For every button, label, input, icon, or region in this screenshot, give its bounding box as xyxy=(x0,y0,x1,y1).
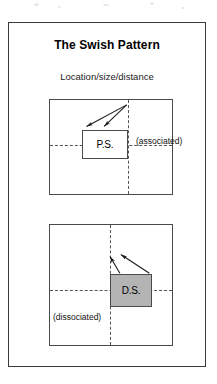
scan-speck xyxy=(34,3,39,6)
present-self-label: P.S. xyxy=(97,139,114,150)
figure-subtitle: Location/size/distance xyxy=(9,71,205,82)
vertical-dashed-axis xyxy=(128,100,129,194)
desired-self-label: D.S. xyxy=(122,285,141,296)
arrow-grow-inner xyxy=(110,256,120,273)
panel-dissociated: D.S. (dissociated) xyxy=(49,224,173,346)
scan-speck xyxy=(181,7,185,9)
arrow-grow-outer xyxy=(121,255,150,274)
scan-speck xyxy=(150,2,154,5)
arrow-shrink-inner xyxy=(104,105,127,127)
panel-associated: P.S. (associated) xyxy=(49,99,173,195)
desired-self-box: D.S. xyxy=(110,274,152,307)
figure-title: The Swish Pattern xyxy=(9,38,205,52)
label-dissociated: (dissociated) xyxy=(53,312,101,322)
present-self-box: P.S. xyxy=(82,130,128,159)
label-associated: (associated) xyxy=(136,136,182,146)
scan-artifact-top xyxy=(0,0,217,20)
figure-frame: The Swish Pattern Location/size/distance… xyxy=(8,22,206,367)
scan-speck xyxy=(58,6,61,8)
scan-speck xyxy=(103,4,109,6)
arrow-shrink-outer xyxy=(87,105,127,127)
